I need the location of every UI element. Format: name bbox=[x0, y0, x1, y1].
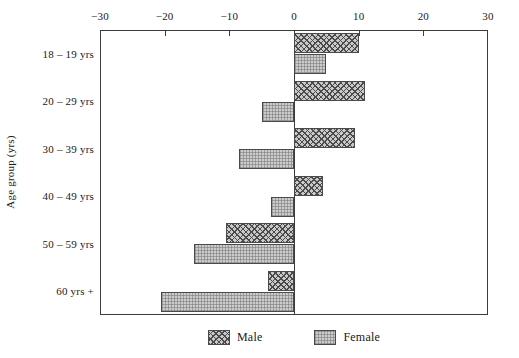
bar-female-4 bbox=[194, 244, 294, 264]
x-axis-tick-label: 30 bbox=[482, 10, 493, 22]
y-axis-tick-label: 30 – 39 yrs bbox=[43, 143, 94, 155]
bar-female-0 bbox=[294, 54, 326, 74]
bar-male-5 bbox=[268, 271, 294, 291]
bar-male-4 bbox=[226, 223, 294, 243]
bar-male-1 bbox=[294, 81, 365, 101]
y-axis-tick-label: 50 – 59 yrs bbox=[43, 238, 94, 250]
bar-female-3 bbox=[271, 197, 294, 217]
y-axis-tick-label: 20 – 29 yrs bbox=[43, 95, 94, 107]
y-axis-tick-label: 40 – 49 yrs bbox=[43, 190, 94, 202]
y-axis-title: Age group (yrs) bbox=[4, 135, 16, 208]
bar-female-1 bbox=[262, 102, 294, 122]
x-axis-tick-label: 20 bbox=[418, 10, 429, 22]
x-axis-tick bbox=[229, 30, 230, 36]
x-axis-tick-label: 10 bbox=[353, 10, 364, 22]
y-axis-tick-label: 18 – 19 yrs bbox=[43, 48, 94, 60]
x-axis-tick bbox=[359, 30, 360, 36]
y-axis-tick-label: 60 yrs + bbox=[56, 285, 94, 297]
horizontal-bar-chart: −30−20−100102030 18 – 19 yrs20 – 29 yrs3… bbox=[0, 0, 519, 358]
bar-male-3 bbox=[294, 176, 323, 196]
legend: Male Female bbox=[100, 322, 488, 352]
bar-male-2 bbox=[294, 128, 355, 148]
legend-label-female: Female bbox=[343, 330, 380, 345]
x-axis-tick bbox=[165, 30, 166, 36]
bar-female-5 bbox=[161, 292, 294, 312]
legend-swatch-male-icon bbox=[208, 330, 230, 345]
legend-item-female: Female bbox=[314, 330, 380, 345]
bar-male-0 bbox=[294, 33, 359, 53]
legend-item-male: Male bbox=[208, 330, 262, 345]
x-axis-tick-label: 0 bbox=[291, 10, 297, 22]
legend-swatch-female-icon bbox=[314, 330, 336, 345]
x-axis-tick-label: −20 bbox=[156, 10, 174, 22]
x-axis-tick bbox=[423, 30, 424, 36]
legend-label-male: Male bbox=[237, 330, 262, 345]
bar-female-2 bbox=[239, 149, 294, 169]
x-axis-tick-label: −10 bbox=[220, 10, 238, 22]
